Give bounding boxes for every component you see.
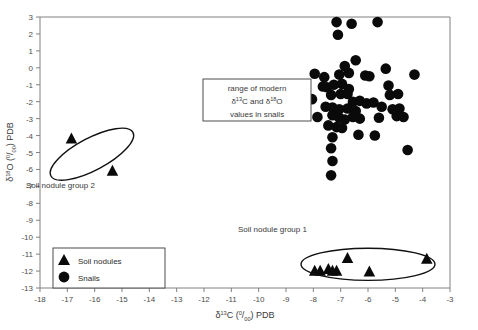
x-tick-label: -13 [171,295,183,304]
snail-data-point [402,145,413,156]
y-tick-label: -12 [21,267,33,276]
snail-data-point [346,18,357,29]
legend-circle-icon [59,272,70,283]
y-axis-title: δ18O (0/00) PDB [5,122,17,182]
x-tick-label: -9 [282,295,290,304]
y-tick-label: -1 [26,81,34,90]
x-tick-label: -16 [89,295,101,304]
legend-label-soil-nodules: Soil nodules [78,257,122,266]
snail-data-point [409,69,420,80]
snail-data-point [344,68,355,79]
y-tick-label: -10 [21,233,33,242]
snail-data-point [333,29,344,40]
x-tick-label: -18 [34,295,46,304]
snail-data-point [326,170,337,181]
y-tick-label: -2 [26,98,34,107]
chart-figure: -18-17-16-15-14-13-12-11-10-9-8-7-6-5-4-… [0,0,478,330]
y-tick-label: -9 [26,216,34,225]
x-tick-label: -7 [337,295,345,304]
y-tick-label: -8 [26,199,34,208]
range-annotation-line3: values in snails [230,110,284,119]
x-tick-label: -17 [62,295,74,304]
snail-data-point [337,123,348,134]
x-tick-label: -11 [226,295,238,304]
soil-nodule-data-point [364,266,376,277]
snail-data-point [376,101,387,112]
snail-data-point [383,80,394,91]
soil-nodule-data-point [107,165,119,176]
legend-label-snails: Snails [78,274,100,283]
snail-data-point [319,72,330,83]
x-tick-label: -14 [144,295,156,304]
x-tick-label: -15 [116,295,128,304]
y-tick-label: -4 [26,132,34,141]
legend: Soil nodules Snails [53,248,165,288]
range-annotation-line1: range of modern [228,84,287,93]
snail-data-point [312,112,323,123]
soil-nodule-data-point [342,252,354,263]
x-tick-label: -6 [364,295,372,304]
snail-data-point [398,112,409,123]
snail-data-point [372,17,383,28]
y-tick-label: 0 [29,64,34,73]
soil-nodule-group-2-ellipse [43,118,140,190]
series-snails [307,17,420,181]
x-tick-label: -5 [392,295,400,304]
x-tick-label: -10 [253,295,265,304]
snail-data-point [355,113,366,124]
snail-data-point [326,90,337,101]
range-annotation-box: range of modern δ13C and δ18O values in … [203,79,311,121]
snail-data-point [380,63,391,74]
y-axis-ticks: 3210-1-2-3-4-5-6-7-8-9-10-11-12-13 [21,13,40,293]
snail-data-point [334,69,345,80]
x-tick-label: -3 [446,295,454,304]
snail-data-point [374,112,385,123]
snail-data-point [327,156,338,167]
x-axis-title: δ13C (0/00) PDB [215,310,274,322]
y-tick-label: -6 [26,165,34,174]
soil-nodule-group-2-label: Soil nodule group 2 [26,181,95,190]
x-axis-ticks: -18-17-16-15-14-13-12-11-10-9-8-7-6-5-4-… [34,288,454,304]
x-tick-label: -8 [310,295,318,304]
scatter-plot-svg: -18-17-16-15-14-13-12-11-10-9-8-7-6-5-4-… [0,0,478,330]
soil-nodule-data-point [66,133,78,144]
plot-frame [40,17,450,288]
y-tick-label: -13 [21,284,33,293]
y-tick-label: -11 [22,250,34,259]
snail-data-point [350,55,361,66]
soil-nodule-group-1-label: Soil nodule group 1 [238,225,307,234]
snail-data-point [353,129,364,140]
snail-data-point [327,132,338,143]
y-tick-label: -5 [26,149,34,158]
y-tick-label: 2 [29,30,34,39]
snail-data-point [326,143,337,154]
snail-data-point [364,71,375,82]
x-tick-label: -4 [419,295,427,304]
snail-data-point [370,130,381,141]
y-tick-label: 3 [29,13,34,22]
x-tick-label: -12 [198,295,210,304]
snail-data-point [309,68,320,79]
y-tick-label: 1 [29,47,34,56]
y-tick-label: -3 [26,115,34,124]
snail-data-point [331,17,342,28]
snail-data-point [393,89,404,100]
